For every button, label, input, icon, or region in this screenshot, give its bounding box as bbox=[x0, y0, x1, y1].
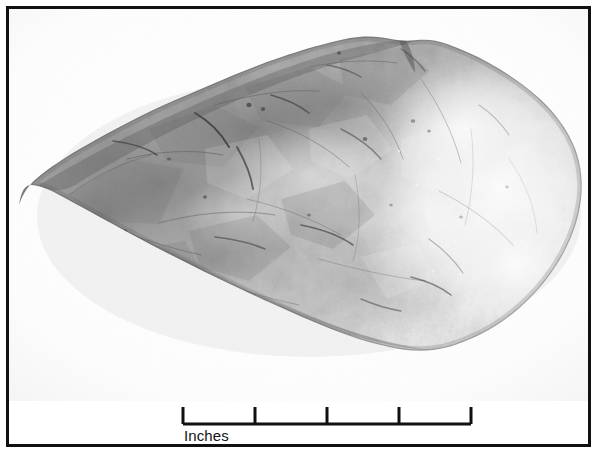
scale-bar-icon bbox=[177, 405, 477, 427]
specimen-photo-area bbox=[9, 9, 588, 401]
scale-unit-label: Inches bbox=[184, 427, 229, 444]
cropped-caption-sliver bbox=[0, 455, 613, 463]
stone-biface-photograph bbox=[9, 9, 588, 401]
scale-bar-group: Inches bbox=[9, 401, 588, 447]
plate-frame: Inches bbox=[6, 6, 591, 447]
figure-plate: Inches bbox=[0, 0, 613, 463]
